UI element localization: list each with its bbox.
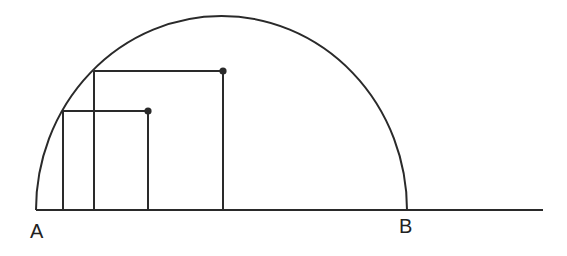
large-rectangle xyxy=(94,71,223,210)
semicircle-diagram: A B xyxy=(0,0,567,256)
large-rectangle-corner-point xyxy=(219,67,226,74)
label-b: B xyxy=(399,215,412,237)
label-a: A xyxy=(30,220,44,242)
small-rectangle xyxy=(63,111,148,210)
small-rectangle-corner-point xyxy=(144,107,151,114)
semicircle-arc xyxy=(36,16,407,210)
